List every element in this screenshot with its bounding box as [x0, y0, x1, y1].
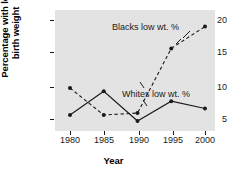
- data-point: [169, 99, 173, 103]
- data-point: [203, 25, 207, 29]
- data-point: [68, 113, 72, 117]
- leader-whites-2: [143, 100, 147, 106]
- data-point: [203, 106, 207, 110]
- data-point: [102, 89, 106, 93]
- data-point: [102, 113, 106, 117]
- series-whites: [68, 89, 207, 123]
- data-point: [136, 111, 140, 115]
- data-point: [169, 46, 173, 50]
- series-blacks: [68, 25, 207, 117]
- markers-whites: [68, 89, 207, 123]
- low-birth-weight-line-chart: Percentage with low birth weight 20 15 1…: [0, 0, 227, 180]
- data-point: [136, 119, 140, 123]
- line-blacks: [70, 27, 205, 115]
- series-layer: [0, 0, 227, 180]
- line-whites: [70, 91, 205, 121]
- data-point: [68, 86, 72, 90]
- leader-whites: [140, 82, 144, 88]
